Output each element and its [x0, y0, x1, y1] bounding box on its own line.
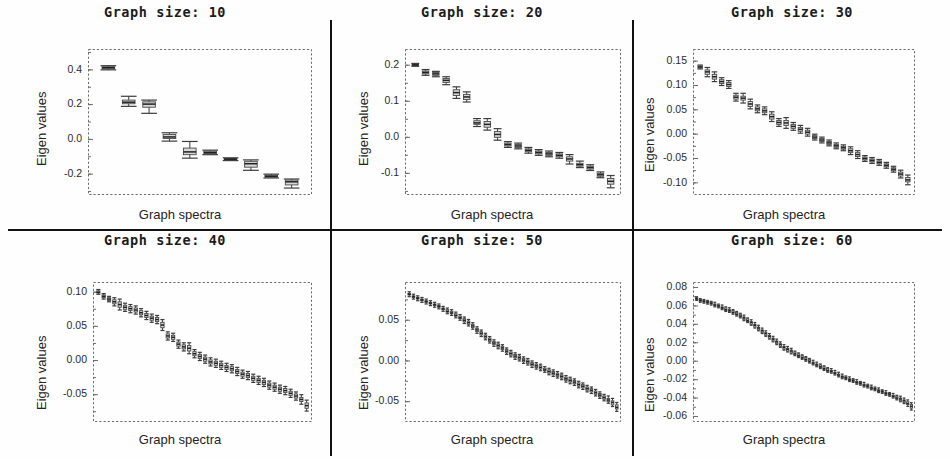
- svg-text:-0.06: -0.06: [663, 409, 687, 421]
- box-plot-item: [412, 294, 415, 299]
- panel-graph-size-60: Graph size: 60 Eigen values 0.080.060.04…: [634, 232, 950, 459]
- x-axis-label: Graph spectra: [352, 432, 632, 447]
- box-plot-item: [480, 330, 483, 337]
- plot-area: 0.150.100.050.00-0.05-0.10: [693, 49, 915, 195]
- box-plot-item: [543, 367, 546, 373]
- box-plot-item: [166, 332, 170, 340]
- box-plot-item: [746, 318, 749, 323]
- box-plot-item: [877, 388, 880, 393]
- svg-text:0.06: 0.06: [667, 299, 688, 311]
- box-plot-item: [556, 372, 559, 379]
- box-plot-item: [798, 125, 804, 133]
- box-plot-item: [408, 292, 411, 297]
- box-plot-item: [475, 327, 478, 334]
- box-plot-item: [273, 383, 277, 391]
- box-plot-item: [416, 296, 419, 301]
- box-plot-item: [121, 96, 137, 106]
- box-plot-item: [721, 305, 724, 310]
- box-plot-item: [590, 387, 593, 394]
- box-plot-item: [101, 66, 117, 70]
- x-axis-label: Graph spectra: [644, 432, 924, 447]
- box-plot-item: [471, 323, 474, 330]
- svg-text:-0.2: -0.2: [64, 167, 82, 179]
- horizontal-divider: [8, 229, 942, 231]
- box-plot-item: [432, 71, 440, 76]
- panel-graph-size-10: Graph size: 10 Eigen values 0.40.20.0-0.…: [0, 4, 330, 229]
- svg-text:0.4: 0.4: [67, 63, 82, 75]
- box-plot-item: [703, 300, 706, 304]
- svg-text:0.00: 0.00: [67, 353, 88, 365]
- box-plot-item: [219, 361, 223, 369]
- box-plot-item: [299, 395, 303, 405]
- svg-text:-0.05: -0.05: [375, 394, 399, 406]
- box-plot-item: [855, 151, 861, 159]
- box-plot-item: [294, 392, 298, 400]
- box-plot-item: [555, 152, 563, 158]
- box-plot-item: [750, 320, 753, 326]
- box-plot-item: [876, 159, 882, 165]
- panel-title: Graph size: 30: [634, 4, 950, 20]
- box-plot-item: [162, 133, 178, 141]
- box-plot-item: [278, 385, 282, 393]
- box-plot-item: [607, 176, 615, 188]
- box-plot-item: [743, 315, 746, 321]
- svg-text:-0.05: -0.05: [63, 387, 87, 399]
- box-plot-item: [726, 81, 732, 89]
- svg-text:-0.1: -0.1: [381, 166, 399, 178]
- box-plot-item: [202, 150, 218, 155]
- box-plot-item: [458, 315, 461, 321]
- box-plot-item: [699, 299, 702, 303]
- box-plot-item: [223, 158, 239, 161]
- boxplot-svg: 0.20.10.0-0.1: [405, 49, 621, 195]
- box-plot-item: [514, 143, 522, 149]
- box-plot-item: [497, 342, 500, 349]
- y-axis-label: Eigen values: [642, 338, 657, 412]
- box-plot-item: [545, 151, 553, 157]
- box-plot-item: [735, 311, 738, 316]
- box-plot-item: [488, 337, 491, 344]
- box-plot-item: [801, 355, 804, 360]
- box-plot-item: [187, 343, 191, 354]
- box-plot-item: [473, 119, 481, 127]
- box-plot-item: [905, 175, 911, 185]
- box-plot-item: [160, 320, 164, 331]
- panel-title: Graph size: 20: [332, 4, 632, 20]
- box-plot-item: [740, 93, 746, 103]
- panel-title: Graph size: 40: [0, 232, 330, 248]
- box-plot-item: [884, 162, 890, 168]
- box-plot-item: [452, 87, 460, 99]
- box-plot-item: [208, 358, 212, 366]
- box-plot-item: [768, 334, 771, 340]
- box-plot-item: [834, 370, 837, 375]
- box-plot-item: [484, 333, 487, 340]
- box-plot-item: [830, 369, 833, 374]
- box-plot-item: [713, 302, 716, 307]
- box-plot-item: [441, 306, 444, 311]
- svg-text:0.00: 0.00: [667, 354, 688, 366]
- box-plot-item: [797, 353, 800, 358]
- figure-panel-grid: Graph size: 10 Eigen values 0.40.20.0-0.…: [0, 0, 950, 459]
- box-plot-item: [710, 301, 713, 305]
- box-plot-item: [530, 361, 533, 368]
- box-plot-item: [246, 371, 250, 379]
- box-plot-item: [833, 143, 839, 149]
- box-plot-item: [712, 72, 718, 82]
- svg-text:0.0: 0.0: [384, 130, 399, 142]
- box-plot-item: [494, 129, 502, 141]
- box-plot-item: [804, 357, 807, 362]
- box-plot-item: [564, 376, 567, 383]
- box-plot-item: [203, 355, 207, 363]
- box-plot-item: [102, 294, 106, 299]
- boxplot-svg: 0.050.00-0.05: [405, 282, 621, 422]
- box-plot-item: [783, 345, 786, 351]
- plot-area: 0.20.10.0-0.1: [405, 49, 621, 195]
- box-plot-item: [761, 328, 764, 334]
- box-plot-item: [214, 359, 218, 367]
- box-plot-item: [176, 340, 180, 348]
- box-plot-item: [547, 368, 550, 375]
- box-plot-item: [815, 362, 818, 367]
- box-plot-item: [869, 158, 875, 164]
- box-plot-item: [446, 308, 449, 314]
- box-plot-item: [182, 141, 198, 158]
- box-plot-item: [155, 315, 159, 323]
